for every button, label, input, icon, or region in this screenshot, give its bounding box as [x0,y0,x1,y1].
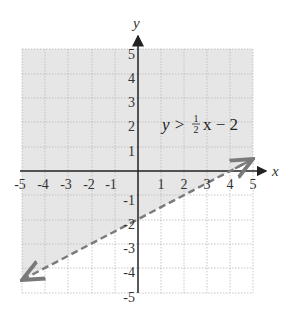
svg-text:2: 2 [194,124,199,135]
svg-text:-5: -5 [14,177,26,192]
svg-text:-5: -5 [123,290,135,305]
svg-text:-4: -4 [37,177,49,192]
svg-text:-1: -1 [123,193,135,208]
x-axis-label: x [271,163,279,179]
svg-text:3: 3 [128,95,135,110]
inequality-graph: y x -5 -4 -3 -2 -1 1 2 3 4 5 5 4 3 2 1 -… [0,0,291,318]
y-axis-label: y [131,15,140,31]
svg-text:-2: -2 [123,217,135,232]
svg-text:1: 1 [128,144,135,159]
svg-text:1: 1 [158,177,165,192]
svg-text:3: 3 [204,177,211,192]
svg-text:5: 5 [250,177,257,192]
svg-text:-3: -3 [123,241,135,256]
svg-text:-4: -4 [123,265,135,280]
svg-text:-2: -2 [83,177,95,192]
svg-text:-3: -3 [60,177,72,192]
svg-text:y >: y > [160,115,185,134]
svg-text:x − 2: x − 2 [203,115,238,134]
svg-text:4: 4 [227,177,234,192]
svg-text:2: 2 [181,177,188,192]
svg-text:1: 1 [194,113,199,124]
svg-text:2: 2 [128,119,135,134]
svg-text:-1: -1 [105,177,117,192]
svg-text:5: 5 [128,47,135,62]
svg-text:4: 4 [128,71,135,86]
